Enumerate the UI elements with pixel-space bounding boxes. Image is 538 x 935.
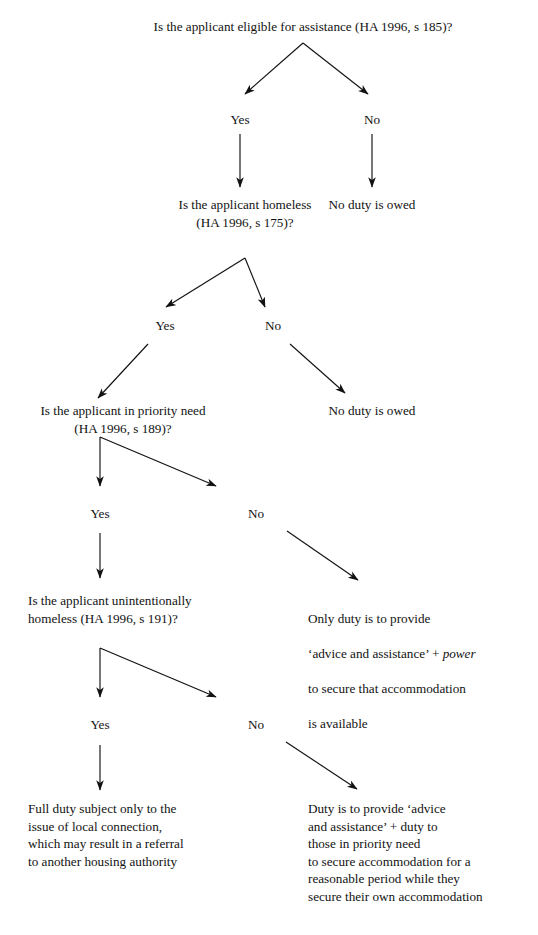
branch-label-no-2: No (243, 318, 303, 334)
edge-q2-no-diagonal (245, 258, 265, 307)
edge-q1-yes-diagonal (245, 43, 303, 94)
question-priority-need: Is the applicant in priority need (HA 19… (14, 402, 232, 437)
outcome-no-duty-owed-1: No duty is owed (302, 196, 442, 214)
edge-q2-yes-diagonal (166, 258, 245, 307)
branch-label-no-1: No (342, 112, 402, 128)
question-unintentionally-homeless: Is the applicant unintentionally homeles… (28, 592, 278, 627)
edge-no2-to-o2 (290, 344, 345, 393)
question-eligible-for-assistance: Is the applicant eligible for assistance… (80, 18, 526, 36)
branch-label-no-4: No (226, 717, 286, 733)
branch-label-yes-4: Yes (70, 717, 130, 733)
edge-q1-no-diagonal (303, 43, 368, 94)
only-duty-line-2-prefix: ‘advice and assistance’ + (308, 646, 443, 661)
only-duty-line-3: to secure that accommodation (308, 681, 466, 696)
branch-label-yes-3: Yes (70, 506, 130, 522)
branch-label-yes-2: Yes (135, 318, 195, 334)
edge-no4-to-o5 (286, 742, 357, 789)
branch-label-yes-1: Yes (210, 112, 270, 128)
only-duty-line-1: Only duty is to provide (308, 611, 430, 626)
arrow-layer (0, 0, 538, 935)
only-duty-power-italic: power (443, 646, 476, 661)
edge-yes2-to-q3 (98, 344, 148, 398)
branch-label-no-3: No (226, 506, 286, 522)
outcome-no-duty-owed-2: No duty is owed (302, 402, 442, 420)
edge-q3-no-diagonal (100, 437, 216, 486)
outcome-advice-assistance-priority-need: Duty is to provide ‘advice and assistanc… (308, 800, 536, 905)
only-duty-line-4: is available (308, 716, 368, 731)
outcome-only-duty-advice-power: Only duty is to provide ‘advice and assi… (308, 592, 532, 732)
flowchart-canvas: Is the applicant eligible for assistance… (0, 0, 538, 935)
edge-q4-no-diagonal (100, 648, 216, 697)
edge-no3-to-o3 (287, 531, 358, 580)
outcome-full-duty-local-connection: Full duty subject only to the issue of l… (28, 800, 278, 870)
